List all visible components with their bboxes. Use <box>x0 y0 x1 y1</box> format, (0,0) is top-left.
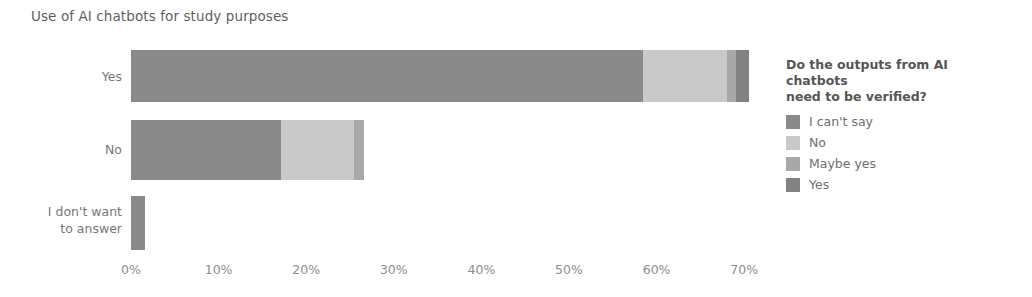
x-axis-tick-label: 0% <box>121 262 141 277</box>
category-label-line: Yes <box>0 68 122 85</box>
legend-swatch-icon <box>786 178 800 192</box>
bar-segment[interactable] <box>131 120 281 180</box>
bar-segment[interactable] <box>131 196 145 250</box>
x-axis-tick-label: 20% <box>292 262 320 277</box>
x-axis-tick-label: 10% <box>205 262 233 277</box>
x-axis-tick-label: 70% <box>730 262 758 277</box>
legend-item-label: I can't say <box>809 114 873 129</box>
legend-item[interactable]: I can't say <box>786 111 1026 132</box>
bar-segment[interactable] <box>727 50 737 102</box>
x-axis-tick-label: 30% <box>380 262 408 277</box>
category-label: I don't wantto answer <box>0 203 122 237</box>
bar-segment[interactable] <box>643 50 726 102</box>
legend-item[interactable]: Maybe yes <box>786 153 1026 174</box>
legend-title-line-1: Do the outputs from AI chatbots <box>786 57 948 88</box>
legend-item[interactable]: No <box>786 132 1026 153</box>
legend-title: Do the outputs from AI chatbots need to … <box>786 57 1011 105</box>
legend-item-label: No <box>809 135 826 150</box>
category-label-line: to answer <box>0 220 122 237</box>
bar-stack <box>131 120 364 180</box>
plot-area: YesNoI don't wantto answer <box>0 0 780 297</box>
category-label-line: I don't want <box>0 203 122 220</box>
category-label: Yes <box>0 68 122 85</box>
x-axis-tick-label: 40% <box>467 262 495 277</box>
legend-items: I can't sayNoMaybe yesYes <box>786 111 1026 195</box>
legend-swatch-icon <box>786 157 800 171</box>
legend-item[interactable]: Yes <box>786 174 1026 195</box>
bar-stack <box>131 50 749 102</box>
chart-legend: Do the outputs from AI chatbots need to … <box>786 57 1026 195</box>
category-label: No <box>0 141 122 158</box>
bar-stack <box>131 196 145 250</box>
bar-segment[interactable] <box>281 120 355 180</box>
category-label-line: No <box>0 141 122 158</box>
legend-title-line-2: need to be verified? <box>786 89 927 104</box>
legend-swatch-icon <box>786 136 800 150</box>
x-axis-tick-label: 60% <box>643 262 671 277</box>
bar-segment[interactable] <box>131 50 643 102</box>
legend-item-label: Yes <box>809 177 829 192</box>
legend-swatch-icon <box>786 115 800 129</box>
x-axis-tick-label: 50% <box>555 262 583 277</box>
legend-item-label: Maybe yes <box>809 156 876 171</box>
x-axis: 0%10%20%30%40%50%60%70% <box>0 262 780 282</box>
bar-segment[interactable] <box>736 50 748 102</box>
bar-segment[interactable] <box>354 120 364 180</box>
